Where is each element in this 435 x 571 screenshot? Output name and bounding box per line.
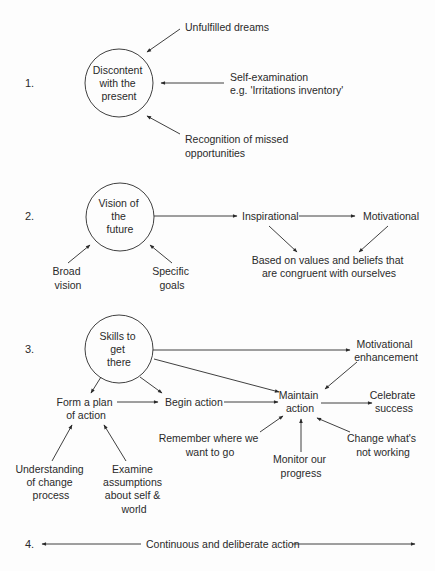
arrow <box>52 425 72 461</box>
arrow <box>91 377 101 393</box>
change-process-diagram: 1. Discontent with the present Unfulfill… <box>0 0 435 571</box>
values-beliefs-label: Based on values and beliefs that are con… <box>252 254 407 279</box>
arrow <box>68 245 90 263</box>
arrow <box>150 245 172 263</box>
stage-4: 4. Continuous and deliberate action <box>25 538 415 550</box>
begin-action-label: Begin action <box>165 396 223 408</box>
examine-label: Examine assumptions about self & world <box>103 463 165 515</box>
arrow <box>140 377 162 393</box>
stage-1: 1. Discontent with the present Unfulfill… <box>25 21 343 159</box>
motivational-label: Motivational <box>363 210 419 222</box>
arrow <box>317 418 350 432</box>
arrow <box>147 29 180 52</box>
monitor-progress-label: Monitor our progress <box>273 453 329 479</box>
motivational-enhancement-label: Motivational enhancement <box>354 338 418 363</box>
arrow <box>269 226 297 252</box>
arrow <box>154 359 279 392</box>
understanding-label: Understanding of change process <box>15 463 86 501</box>
arrow <box>260 416 283 432</box>
stage-3: 3. Skills to get there Motivational enha… <box>15 315 419 515</box>
continuous-action-label: Continuous and deliberate action <box>146 538 300 550</box>
broad-vision-label: Broad vision <box>53 265 84 291</box>
form-plan-label: Form a plan of action <box>57 396 116 421</box>
input-self-examination: Self-examination e.g. 'Irritations inven… <box>230 71 343 96</box>
arrow <box>104 425 126 461</box>
stage-number: 3. <box>25 343 34 355</box>
stage-2: 2. Vision of the future Inspirational Mo… <box>25 183 419 291</box>
stage-number: 1. <box>25 77 34 89</box>
stage-number: 4. <box>25 538 34 550</box>
celebrate-success-label: Celebrate success <box>370 389 418 414</box>
change-label: Change what's not working <box>347 432 419 458</box>
inspirational-label: Inspirational <box>242 210 299 222</box>
arrow <box>359 226 388 252</box>
input-unfulfilled-dreams: Unfulfilled dreams <box>185 21 269 33</box>
stage-number: 2. <box>25 210 34 222</box>
specific-goals-label: Specific goals <box>152 265 192 291</box>
input-missed-opportunities: Recognition of missed opportunities <box>185 133 291 159</box>
arrow <box>147 116 180 134</box>
remember-label: Remember where we want to go <box>159 432 262 458</box>
arrow <box>325 362 357 389</box>
maintain-action-label: Maintain action <box>279 389 322 414</box>
